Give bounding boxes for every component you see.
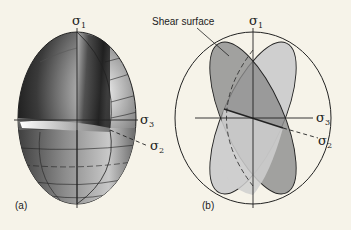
panel-a-label: (a) xyxy=(15,200,27,211)
sigma1-label-a: σ1 xyxy=(72,13,86,30)
sigma3-label-a: σ3 xyxy=(140,112,154,129)
panel-b-label: (b) xyxy=(202,200,214,211)
shear-surface-label: Shear surface xyxy=(152,16,215,27)
panel-b-ellipsoid xyxy=(175,28,331,208)
sigma2-label-a: σ2 xyxy=(150,138,164,155)
figure: σ1 σ3 σ2 (a) Shear surface σ1 σ3 σ2 (b) xyxy=(0,0,351,230)
sigma1-label-b: σ1 xyxy=(249,13,263,30)
sigma3-label-b: σ3 xyxy=(316,110,330,127)
panel-a-ellipsoid xyxy=(14,28,148,208)
